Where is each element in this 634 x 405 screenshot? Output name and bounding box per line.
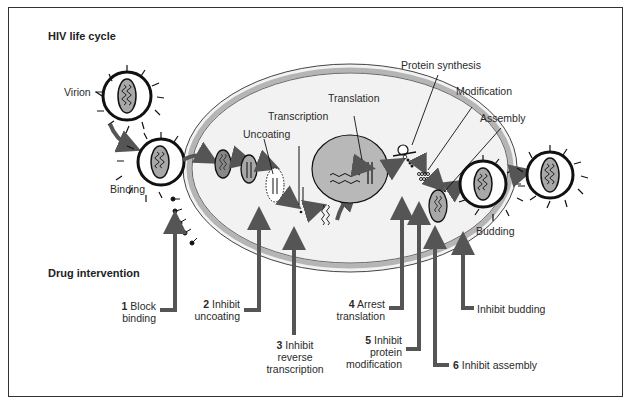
intervention-text: translation <box>337 310 385 322</box>
diagram-title: HIV life cycle <box>48 30 116 42</box>
flow-arrow <box>110 124 130 146</box>
uncoated-genome-icon <box>266 168 284 202</box>
intervention-text: Inhibit budding <box>477 303 545 315</box>
intervention-text: uncoating <box>194 310 240 322</box>
label-protein-synthesis: Protein synthesis <box>401 59 481 71</box>
drug-intervention-heading: Drug intervention <box>48 267 140 279</box>
intervention-text: modification <box>346 358 402 370</box>
label-assembly: Assembly <box>480 112 526 124</box>
released-virion-icon <box>517 145 588 208</box>
intervention-number: 2 <box>203 298 209 310</box>
flow-arrow <box>261 162 269 165</box>
intervention-4: 4 Arrest translation <box>330 298 385 322</box>
intervention-budding: Inhibit budding <box>477 303 545 315</box>
intervention-3: 3 Inhibit reverse transcription <box>262 339 328 375</box>
intervention-text: Inhibit <box>374 334 402 346</box>
label-transcription: Transcription <box>268 110 328 122</box>
intervention-number: 6 <box>453 359 459 371</box>
flow-arrow <box>235 158 243 160</box>
intervention-1: 1 Block binding <box>110 300 156 324</box>
intervention-text: Inhibit <box>285 339 313 351</box>
label-uncoating: Uncoating <box>243 128 290 140</box>
label-translation: Translation <box>328 92 380 104</box>
intervention-text: transcription <box>266 363 323 375</box>
intervention-text: Block <box>130 300 156 312</box>
assembling-capsid-icon <box>429 190 447 222</box>
label-binding: Binding <box>110 183 145 195</box>
intervention-5: 5 Inhibit protein modification <box>340 334 402 370</box>
label-budding: Budding <box>476 225 515 237</box>
intervention-text: binding <box>122 312 156 324</box>
virion-icon <box>96 65 164 133</box>
intervention-number: 3 <box>277 339 283 351</box>
intervention-text: reverse <box>277 351 312 363</box>
intervention-number: 5 <box>365 334 371 346</box>
intervention-number: 1 <box>122 300 128 312</box>
intervention-text: Inhibit assembly <box>462 359 537 371</box>
nucleus <box>312 135 388 203</box>
intervention-text: Arrest <box>357 298 385 310</box>
intervention-text: Inhibit <box>212 298 240 310</box>
intervention-text: protein <box>370 346 402 358</box>
capsid-icon <box>241 155 257 183</box>
capsid-icon <box>215 150 231 178</box>
label-modification: Modification <box>456 85 512 97</box>
intervention-2: 2 Inhibit uncoating <box>188 298 240 322</box>
intervention-6: 6 Inhibit assembly <box>453 359 537 371</box>
intervention-number: 4 <box>349 298 355 310</box>
label-virion: Virion <box>64 86 91 98</box>
